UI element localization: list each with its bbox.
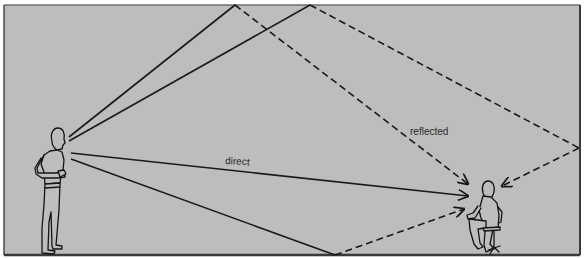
reflected-label: reflected xyxy=(410,126,448,137)
sound-reflection-diagram: direct reflected xyxy=(0,0,584,258)
direct-label: direct xyxy=(225,155,250,167)
speaker-head xyxy=(51,128,65,150)
chair-seat xyxy=(483,227,500,231)
